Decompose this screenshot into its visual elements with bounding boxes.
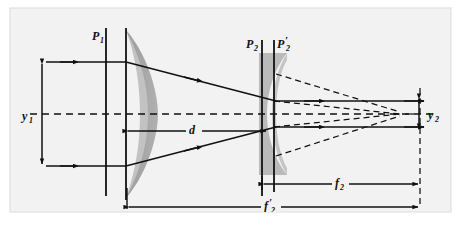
label-p1-base: P: [92, 29, 100, 43]
label-p2-prime-base: P: [277, 37, 285, 51]
label-p2-prime-sub: 2: [285, 44, 290, 53]
label-y2-base: y: [426, 108, 434, 122]
label-f2-sub: 2: [339, 183, 344, 192]
label-y1-base: y: [20, 109, 28, 123]
label-y1-sub: 1: [29, 116, 33, 125]
label-p1-sub: 1: [100, 36, 104, 45]
label-d-base: d: [189, 123, 196, 137]
label-y2-sub: 2: [434, 115, 439, 124]
label-d: d: [186, 122, 202, 137]
label-p2-prime: P ′ 2: [277, 34, 290, 53]
ray-diagram-canvas: P 1 P 2 P ′ 2 y 1 y 2 d: [0, 0, 461, 228]
figure-plate: [10, 8, 451, 212]
optics-figure: P 1 P 2 P ′ 2 y 1 y 2 d: [0, 0, 461, 228]
label-p2-base: P: [246, 37, 254, 51]
label-p2-sub: 2: [253, 44, 258, 53]
